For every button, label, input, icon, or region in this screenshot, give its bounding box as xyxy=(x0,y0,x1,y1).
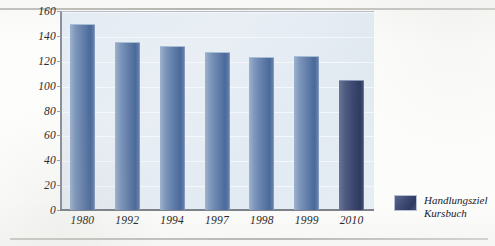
y-axis-tick-label: 0 xyxy=(4,204,56,216)
x-axis-tick-label: 2010 xyxy=(329,214,374,226)
chart-legend: Handlungsziel Kursbuch xyxy=(394,194,492,220)
x-axis-tick-label: 1999 xyxy=(284,214,329,226)
y-axis-tick-label: 80 xyxy=(4,105,56,117)
y-axis-tick-label: 160 xyxy=(4,5,56,17)
legend-swatch-handlungsziel-kursbuch xyxy=(394,195,417,211)
bar-chart: 020406080100120140160 198019921994199719… xyxy=(0,0,495,246)
x-axis-tick-label: 1994 xyxy=(150,214,195,226)
x-axis-labels: 1980199219941997199819992010 xyxy=(60,214,374,240)
x-axis-tick-label: 1997 xyxy=(195,214,240,226)
x-axis-tick-label: 1980 xyxy=(60,214,105,226)
y-axis-tick-label: 20 xyxy=(4,179,56,191)
y-axis-tick-label: 100 xyxy=(4,80,56,92)
bar-series xyxy=(60,11,374,210)
x-axis-tick-label: 1998 xyxy=(239,214,284,226)
y-axis-tick-label: 120 xyxy=(4,55,56,67)
legend-label-line-1: Handlungsziel xyxy=(424,194,488,207)
legend-label-line-2: Kursbuch xyxy=(424,207,488,220)
bar-1999 xyxy=(294,56,319,210)
bar-1992 xyxy=(115,42,140,210)
x-axis-tick-label: 1992 xyxy=(105,214,150,226)
y-axis-tick-label: 60 xyxy=(4,129,56,141)
scanned-page: 020406080100120140160 198019921994199719… xyxy=(0,0,495,246)
bar-1997 xyxy=(205,52,230,210)
bar-2010 xyxy=(339,80,364,210)
bar-1980 xyxy=(70,24,95,210)
bar-1994 xyxy=(160,46,185,210)
legend-label-handlungsziel-kursbuch: Handlungsziel Kursbuch xyxy=(424,194,488,220)
bar-1998 xyxy=(249,57,274,210)
y-axis: 020406080100120140160 xyxy=(0,0,56,246)
y-axis-tick-label: 140 xyxy=(4,30,56,42)
y-axis-tick-label: 40 xyxy=(4,154,56,166)
